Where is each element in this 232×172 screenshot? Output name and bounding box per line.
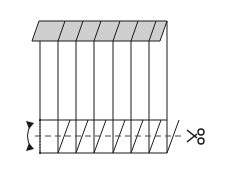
scissors-icon xyxy=(187,129,204,144)
top-band xyxy=(32,21,167,41)
folding-diagram xyxy=(0,0,232,172)
